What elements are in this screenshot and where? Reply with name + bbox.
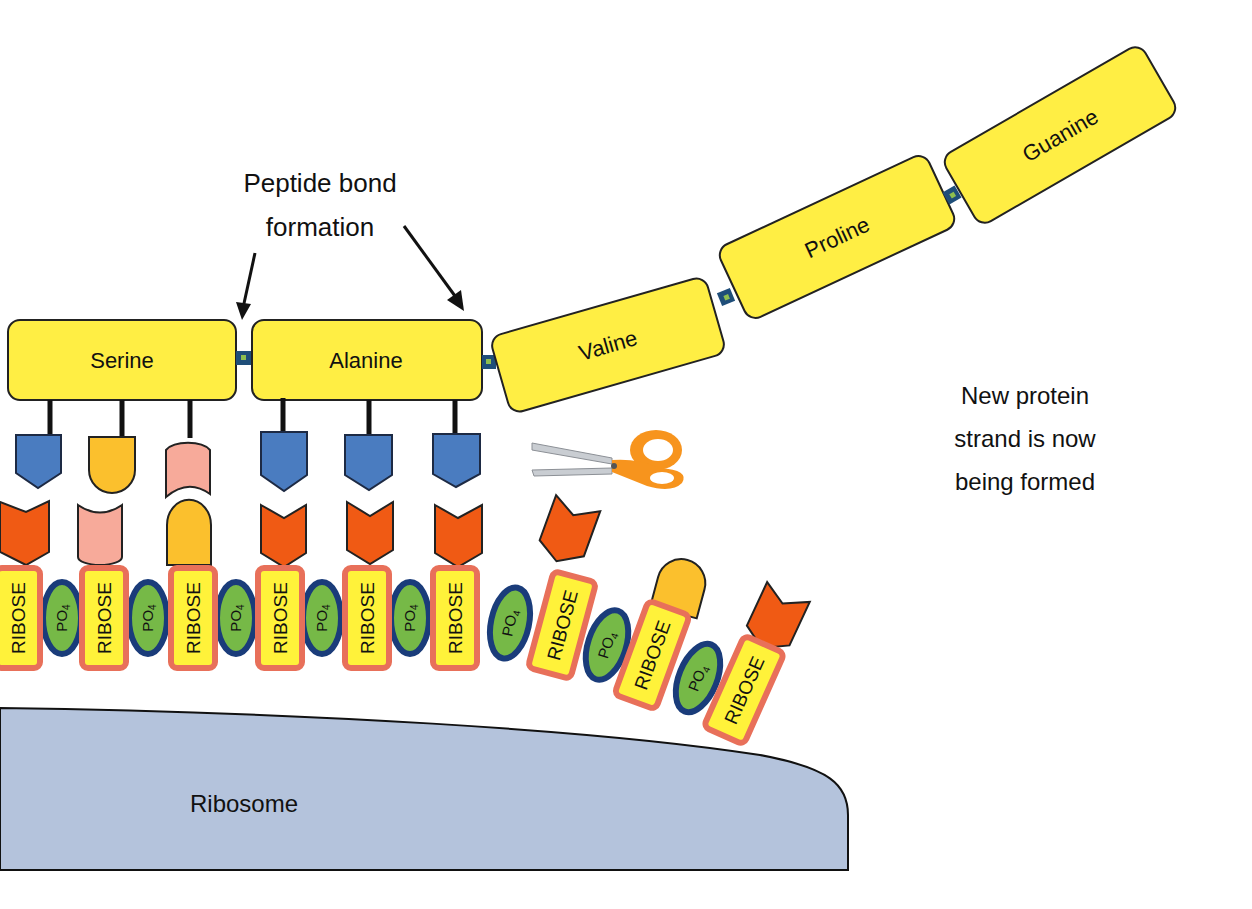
base-orange	[0, 501, 49, 565]
arrow-head-right	[447, 290, 464, 311]
ribose: RIBOSE	[0, 568, 40, 668]
base-yellow	[89, 437, 135, 493]
peptide-bond-line2: formation	[266, 212, 374, 242]
amino-acid-proline: Proline	[716, 152, 958, 322]
peptide-bond	[236, 351, 252, 365]
protein-line2: strand is now	[954, 425, 1096, 452]
base-orange	[347, 502, 393, 564]
base-orange	[435, 505, 482, 567]
ribose: RIBOSE	[433, 568, 477, 668]
ribosome-label: Ribosome	[190, 790, 298, 817]
new-protein-annotation: New protein strand is now being formed	[954, 382, 1096, 495]
ribose: RIBOSE	[345, 568, 389, 668]
trna-bases	[16, 432, 480, 497]
base-blue	[16, 435, 61, 488]
base-blue	[345, 435, 392, 490]
peptide-bond-line1: Peptide bond	[243, 168, 396, 198]
ribose-label: RIBOSE	[8, 582, 29, 654]
ribose-label: RIBOSE	[94, 582, 115, 654]
arrow-head-left	[236, 302, 251, 320]
phosphate: PO4	[303, 582, 341, 654]
protein-line1: New protein	[961, 382, 1089, 409]
amino-acid-alanine: Alanine	[252, 320, 482, 400]
base-pink	[78, 505, 122, 565]
base-orange	[261, 505, 306, 567]
amino-acid-label: Alanine	[329, 348, 402, 373]
ribose-label: RIBOSE	[183, 582, 204, 654]
peptide-bond-annotation: Peptide bond formation	[236, 168, 464, 320]
ribose: RIBOSE	[82, 568, 126, 668]
translation-diagram: Ribosome Peptide bond formation New prot…	[0, 0, 1252, 909]
amino-acid-label: Serine	[90, 348, 154, 373]
ribose: RIBOSE	[171, 568, 215, 668]
phosphate: PO4	[217, 582, 255, 654]
amino-acid-guanine: Guanine	[940, 43, 1179, 227]
base-blue	[261, 432, 307, 491]
amino-acid-valine: Valine	[489, 276, 726, 415]
phosphate: PO4	[391, 582, 429, 654]
ribose: RIBOSE	[258, 568, 302, 668]
arrow-line-right	[404, 226, 455, 296]
ribose-label: RIBOSE	[270, 582, 291, 654]
base-yellow	[167, 500, 211, 565]
phosphate: PO4	[129, 582, 167, 654]
arrow-line-left	[243, 253, 255, 308]
ribose-label: RIBOSE	[445, 582, 466, 654]
ribose-label: RIBOSE	[357, 582, 378, 654]
phosphate: PO4	[43, 582, 81, 654]
amino-acid-serine: Serine	[8, 320, 236, 400]
peptide-bond	[717, 288, 735, 306]
phosphate: PO4	[484, 584, 536, 662]
base-pink	[166, 443, 210, 497]
amino-acid-chain: Serine Alanine Valine Proline	[8, 43, 1180, 414]
peptide-bond	[482, 355, 496, 369]
protein-line3: being formed	[955, 468, 1095, 495]
base-orange	[535, 495, 600, 569]
trna-stems	[50, 398, 455, 438]
scissors-icon	[532, 430, 684, 489]
base-blue	[433, 434, 480, 487]
